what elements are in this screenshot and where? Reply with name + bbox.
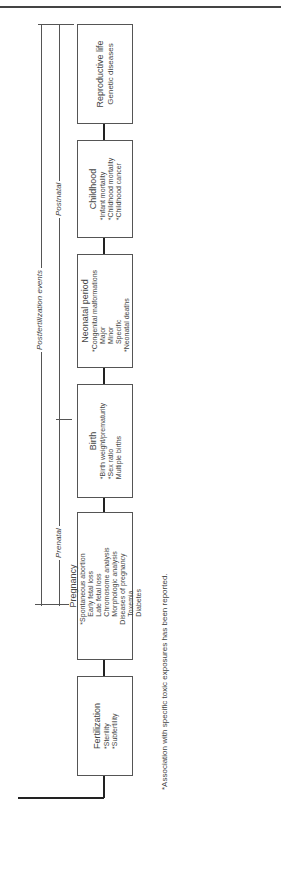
connector: [103, 660, 105, 676]
postfertilization-label: Postfertilization events: [35, 268, 44, 352]
connector: [103, 498, 105, 512]
stage-neonatal-period: Neonatal period *Congenital malformation…: [77, 254, 133, 368]
birth-tick: [56, 419, 72, 420]
bottom-cap: [35, 604, 69, 605]
connector: [103, 238, 105, 254]
prenatal-label: Prenatal: [54, 526, 63, 560]
stage-childhood: Childhood *Infant mortality *Childhood m…: [77, 140, 133, 238]
connector: [103, 368, 105, 384]
top-cap: [38, 24, 74, 25]
branch-horizontal: [18, 797, 104, 799]
branch-stem: [103, 776, 105, 798]
footnote: *Association with specific toxic exposur…: [160, 573, 169, 790]
stage-fertilization: Fertilization *Sterility *Subfertility: [77, 676, 133, 776]
postnatal-line: [59, 24, 60, 606]
page-header-rule: [0, 0, 281, 8]
postnatal-label: Postnatal: [54, 181, 63, 218]
stage-reproductive-life: Reproductive life Genetic diseases: [77, 24, 133, 124]
stage-birth: Birth *Birth weight/prematurity *Sex rat…: [77, 384, 133, 498]
stage-pregnancy: Pregnancy *Spontaneous abortion Early fe…: [77, 512, 133, 660]
connector: [103, 124, 105, 140]
